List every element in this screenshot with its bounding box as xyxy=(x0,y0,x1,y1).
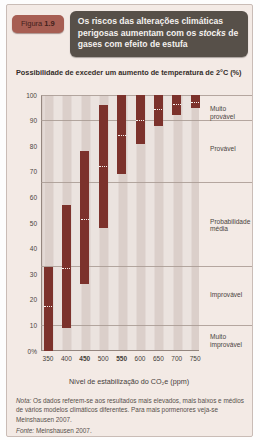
figure-label-prefix: Figura xyxy=(21,19,44,28)
range-bar xyxy=(62,205,71,328)
mid-estimate-marker xyxy=(44,306,52,307)
x-axis-title: Nível de estabilização do CO₂e (ppm) xyxy=(21,377,237,386)
mid-estimate-marker xyxy=(62,268,70,269)
range-bar xyxy=(117,95,126,174)
gridline xyxy=(41,325,252,326)
y-tick-label: 60 xyxy=(9,194,37,201)
figure-label-number: 1.9 xyxy=(44,19,54,28)
y-tick-label: 90 xyxy=(9,117,37,124)
mid-estimate-marker xyxy=(81,219,89,220)
likelihood-band-label: Provável xyxy=(210,145,253,153)
gridline xyxy=(41,266,252,267)
note-label: Nota: xyxy=(16,397,31,404)
mid-estimate-marker xyxy=(136,120,144,121)
source: Fonte: Meinshausen 2007. xyxy=(16,427,246,434)
y-tick-label: 70 xyxy=(9,168,37,175)
y-tick-label: 80 xyxy=(9,143,37,150)
source-label: Fonte: xyxy=(16,427,34,434)
figure-header: Figura 1.9 Os riscos das alterações clim… xyxy=(12,11,248,57)
x-tick-label: 600 xyxy=(130,355,150,362)
likelihood-band-label: Improvável xyxy=(210,291,253,299)
y-tick-label: 100 xyxy=(9,92,37,99)
x-tick-label: 650 xyxy=(148,355,168,362)
x-tick-label: 750 xyxy=(185,355,205,362)
range-bar xyxy=(80,151,89,284)
figure-title: Os riscos das alterações climáticas peri… xyxy=(70,11,248,57)
note: Nota: Os dados referem-se aos resultados… xyxy=(16,396,246,424)
source-text: Meinshausen 2007. xyxy=(34,427,92,434)
x-tick-label: 350 xyxy=(38,355,58,362)
mid-estimate-marker xyxy=(191,102,199,103)
x-tick-label: 550 xyxy=(112,355,132,362)
range-bar xyxy=(136,95,145,144)
figure-number-badge: Figura 1.9 xyxy=(12,15,64,33)
figure-title-italic: stocks xyxy=(199,28,226,38)
likelihood-band-label: Muito improvável xyxy=(210,333,253,349)
range-bar xyxy=(99,105,108,228)
mid-estimate-marker xyxy=(118,135,126,136)
x-tick-label: 450 xyxy=(75,355,95,362)
gridline xyxy=(41,95,252,96)
range-bar xyxy=(172,95,181,115)
mid-estimate-marker xyxy=(154,109,162,110)
likelihood-band-label: Muito provável xyxy=(210,105,253,121)
y-tick-label: 10 xyxy=(9,322,37,329)
figure-panel: Figura 1.9 Os riscos das alterações clim… xyxy=(6,4,253,437)
x-tick-label: 700 xyxy=(167,355,187,362)
y-tick-label: 50 xyxy=(9,220,37,227)
note-text: Os dados referem-se aos resultados mais … xyxy=(16,397,244,423)
mid-estimate-marker xyxy=(173,104,181,105)
range-bar xyxy=(191,95,200,108)
y-tick-label: 30 xyxy=(9,271,37,278)
y-tick-label: 20 xyxy=(9,296,37,303)
x-tick-label: 500 xyxy=(93,355,113,362)
mid-estimate-marker xyxy=(99,166,107,167)
chart: Nível de estabilização do CO₂e (ppm) 100… xyxy=(7,95,253,405)
gridline xyxy=(41,182,252,183)
range-bar xyxy=(154,95,163,126)
y-tick-label: 0% xyxy=(9,348,37,355)
likelihood-band-label: Probabilidade média xyxy=(210,218,253,234)
range-bar xyxy=(44,267,53,351)
x-tick-label: 400 xyxy=(56,355,76,362)
y-tick-label: 40 xyxy=(9,245,37,252)
chart-title: Possibilidade de exceder um aumento de t… xyxy=(16,68,248,77)
